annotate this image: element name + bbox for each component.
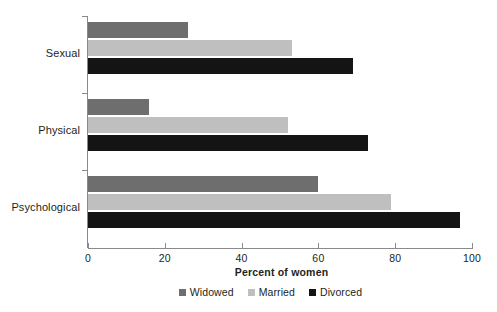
x-axis-tick [88, 243, 89, 249]
category-label-sexual: Sexual [0, 47, 80, 59]
x-axis-tick-label: 80 [389, 252, 401, 264]
x-axis-tick-label: 40 [236, 252, 248, 264]
bar-chart: Sexual Physical Psychological 0204060801… [0, 0, 497, 312]
x-axis-tick-label: 60 [312, 252, 324, 264]
category-label-physical: Physical [0, 124, 80, 136]
bar-psychological-widowed [88, 176, 318, 192]
bar-sexual-widowed [88, 22, 188, 38]
legend-item: Married [248, 286, 295, 298]
x-axis-tick [242, 243, 243, 249]
y-axis-tick [82, 93, 88, 94]
legend-label: Divorced [320, 286, 362, 298]
legend-item: Widowed [179, 286, 234, 298]
legend-label: Married [259, 286, 295, 298]
legend-label: Widowed [190, 286, 234, 298]
x-axis-tick [318, 243, 319, 249]
bar-sexual-divorced [88, 58, 353, 74]
bar-physical-widowed [88, 99, 149, 115]
legend-swatch-icon [179, 289, 186, 296]
y-axis-tick [82, 16, 88, 17]
chart-legend: WidowedMarriedDivorced [0, 286, 497, 298]
bar-physical-married [88, 117, 288, 133]
bar-sexual-married [88, 40, 292, 56]
x-axis-tick [395, 243, 396, 249]
legend-swatch-icon [309, 289, 316, 296]
bar-physical-divorced [88, 135, 368, 151]
category-label-psychological: Psychological [0, 201, 80, 213]
x-axis-line [88, 248, 473, 249]
x-axis-tick-label: 20 [159, 252, 171, 264]
x-axis-tick [165, 243, 166, 249]
legend-items: WidowedMarriedDivorced [172, 286, 369, 298]
bar-psychological-divorced [88, 212, 460, 228]
x-axis-tick [472, 243, 473, 249]
x-axis-tick-label: 100 [463, 252, 481, 264]
x-axis-tick-label: 0 [85, 252, 91, 264]
y-axis-tick [82, 170, 88, 171]
x-axis-title: Percent of women [0, 266, 497, 278]
bar-psychological-married [88, 194, 391, 210]
x-axis-title-text: Percent of women [235, 266, 329, 278]
legend-swatch-icon [248, 289, 255, 296]
legend-item: Divorced [309, 286, 362, 298]
